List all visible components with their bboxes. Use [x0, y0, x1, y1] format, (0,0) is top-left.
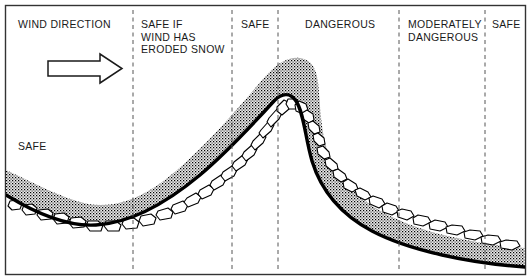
zone-label-safe-crest-approach: SAFE	[241, 18, 270, 31]
zone-label-safe-if-wind-eroded: SAFE IF WIND HAS ERODED SNOW	[141, 18, 225, 56]
zone-label-safe-right: SAFE	[492, 18, 521, 31]
avalanche-hazard-diagram: WIND DIRECTION SAFE SAFE IF WIND HAS ERO…	[0, 0, 532, 279]
figure-frame	[6, 6, 526, 275]
zone-label-wind-direction: WIND DIRECTION	[18, 18, 111, 31]
zone-label-dangerous: DANGEROUS	[305, 18, 375, 31]
zone-label-moderately-dangerous: MODERATELY DANGEROUS	[408, 18, 482, 43]
zone-label-safe-left: SAFE	[18, 140, 47, 153]
